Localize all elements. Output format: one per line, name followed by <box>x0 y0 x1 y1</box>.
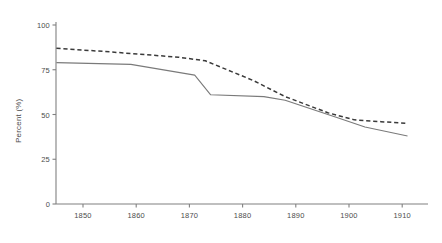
x-tick-label: 1860 <box>127 211 145 220</box>
x-tick-label: 1880 <box>234 211 252 220</box>
chart-figure: 0255075100 1850186018701880189019001910 … <box>0 0 442 243</box>
data-series-group <box>56 48 407 136</box>
y-axis-title: Percent (%) <box>14 98 23 142</box>
y-tick-label: 75 <box>20 65 50 74</box>
y-tick-label: 100 <box>20 21 50 30</box>
x-tick-label: 1910 <box>393 211 411 220</box>
x-tick-label: 1890 <box>287 211 305 220</box>
y-tick-label: 0 <box>20 200 50 209</box>
series-line-solid-series <box>56 63 407 136</box>
y-tick-label: 25 <box>20 155 50 164</box>
x-tick-label: 1870 <box>181 211 199 220</box>
plot-area <box>0 0 442 243</box>
y-tick-label: 50 <box>20 110 50 119</box>
series-line-dashed-series <box>56 48 407 123</box>
x-tick-label: 1850 <box>74 211 92 220</box>
x-tick-label: 1900 <box>340 211 358 220</box>
